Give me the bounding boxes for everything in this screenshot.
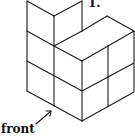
- front-label: front: [1, 123, 35, 135]
- front-arrow-shaft: [36, 111, 51, 124]
- problem-number: 1.: [88, 0, 101, 9]
- isometric-cubes-drawing: [0, 0, 135, 136]
